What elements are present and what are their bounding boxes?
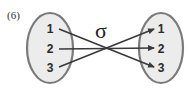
right-element-3: 3 bbox=[158, 61, 165, 75]
left-element-2: 2 bbox=[47, 42, 54, 56]
right-element-2: 2 bbox=[158, 42, 165, 56]
right-element-1: 1 bbox=[158, 22, 165, 36]
sigma-symbol: σ bbox=[95, 18, 107, 43]
left-element-1: 1 bbox=[47, 22, 54, 36]
left-element-3: 3 bbox=[47, 61, 54, 75]
permutation-diagram: σ 1 2 3 1 2 3 bbox=[0, 0, 190, 88]
